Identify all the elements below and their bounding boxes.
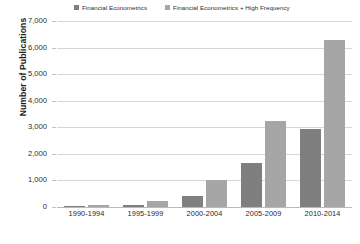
y-tick-label-6000: 6,000 bbox=[3, 44, 47, 52]
y-tick-label-2000: 2,000 bbox=[3, 150, 47, 158]
y-tick-label-5000: 5,000 bbox=[3, 70, 47, 78]
plot-area bbox=[57, 21, 352, 207]
legend-entry-financial-econometrics-high-frequency[interactable]: Financial Econometrics + High Frequency bbox=[165, 5, 290, 11]
y-tick-mark-0 bbox=[52, 207, 56, 208]
y-tick-mark-6000 bbox=[52, 48, 56, 49]
y-tick-mark-3000 bbox=[52, 127, 56, 128]
y-tick-mark-4000 bbox=[52, 101, 56, 102]
legend-entry-financial-econometrics[interactable]: Financial Econometrics bbox=[74, 5, 147, 11]
legend-label-series-2: Financial Econometrics + High Frequency bbox=[173, 5, 290, 11]
bar-1990-1994-series-1[interactable] bbox=[64, 206, 85, 207]
y-tick-mark-2000 bbox=[52, 154, 56, 155]
bar-1990-1994-series-2[interactable] bbox=[88, 205, 109, 207]
x-tick-label-2005-2009: 2005-2009 bbox=[234, 210, 293, 217]
gridline-0 bbox=[57, 207, 352, 208]
bar-2000-2004-series-1[interactable] bbox=[182, 196, 203, 207]
bar-group-2000-2004 bbox=[175, 21, 234, 207]
y-tick-label-0: 0 bbox=[3, 203, 47, 211]
bar-groups bbox=[57, 21, 352, 207]
y-tick-label-1000: 1,000 bbox=[3, 176, 47, 184]
y-tick-label-3000: 3,000 bbox=[3, 123, 47, 131]
bar-group-2005-2009 bbox=[234, 21, 293, 207]
x-tick-label-1995-1999: 1995-1999 bbox=[116, 210, 175, 217]
y-tick-mark-5000 bbox=[52, 74, 56, 75]
bar-group-1990-1994 bbox=[57, 21, 116, 207]
bar-1995-1999-series-1[interactable] bbox=[123, 205, 144, 207]
legend-swatch-series-2 bbox=[165, 5, 170, 10]
x-tick-label-2010-2014: 2010-2014 bbox=[293, 210, 352, 217]
bar-2010-2014-series-2[interactable] bbox=[324, 40, 345, 207]
x-axis-labels: 1990-19941995-19992000-20042005-20092010… bbox=[57, 210, 352, 217]
x-tick-label-1990-1994: 1990-1994 bbox=[57, 210, 116, 217]
legend-label-series-1: Financial Econometrics bbox=[82, 5, 147, 11]
legend-swatch-series-1 bbox=[74, 5, 79, 10]
publications-bar-chart: Financial Econometrics Financial Econome… bbox=[0, 0, 360, 244]
bar-2005-2009-series-2[interactable] bbox=[265, 121, 286, 207]
bar-2010-2014-series-1[interactable] bbox=[300, 129, 321, 207]
bar-2000-2004-series-2[interactable] bbox=[206, 180, 227, 207]
bar-2005-2009-series-1[interactable] bbox=[241, 163, 262, 207]
y-tick-label-4000: 4,000 bbox=[3, 97, 47, 105]
bar-group-1995-1999 bbox=[116, 21, 175, 207]
chart-legend: Financial Econometrics Financial Econome… bbox=[74, 2, 354, 14]
y-tick-label-7000: 7,000 bbox=[3, 17, 47, 25]
bar-group-2010-2014 bbox=[293, 21, 352, 207]
y-tick-mark-1000 bbox=[52, 180, 56, 181]
y-tick-mark-7000 bbox=[52, 21, 56, 22]
x-tick-label-2000-2004: 2000-2004 bbox=[175, 210, 234, 217]
bar-1995-1999-series-2[interactable] bbox=[147, 201, 168, 207]
